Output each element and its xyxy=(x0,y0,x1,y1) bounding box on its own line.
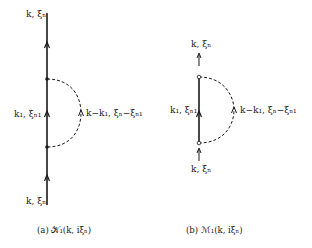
dashed-loop-b xyxy=(199,77,234,143)
label-a-top: k, ξₙ xyxy=(26,10,46,19)
label-a-middle-left: k₁, ξₙ₁ xyxy=(14,110,41,119)
vertex-dot xyxy=(45,145,49,149)
dashed-loop-a xyxy=(47,79,81,147)
label-b-middle-left: k₁, ξₙ₁ xyxy=(170,106,197,115)
panel-b-diagram xyxy=(197,53,237,161)
label-b-top: k, ξₙ xyxy=(191,40,211,49)
label-b-bottom: k, ξₙ xyxy=(191,165,211,174)
vertex-open-circle xyxy=(197,75,201,79)
feynman-diagrams xyxy=(0,0,312,248)
caption-a: (a) 𝒦₁(k, iξₙ) xyxy=(37,226,91,235)
vertex-dot xyxy=(45,77,49,81)
label-a-middle-right: k−k₁, ξₙ−ξₙ₁ xyxy=(86,109,143,118)
label-a-bottom: k, ξₙ xyxy=(26,197,46,206)
label-b-middle-right: k−k₁, ξₙ−ξₙ₁ xyxy=(240,106,297,115)
vertex-open-circle xyxy=(197,141,201,145)
caption-b: (b) ℳ₁(k, iξₙ) xyxy=(186,226,242,235)
panel-a-diagram xyxy=(45,13,84,205)
